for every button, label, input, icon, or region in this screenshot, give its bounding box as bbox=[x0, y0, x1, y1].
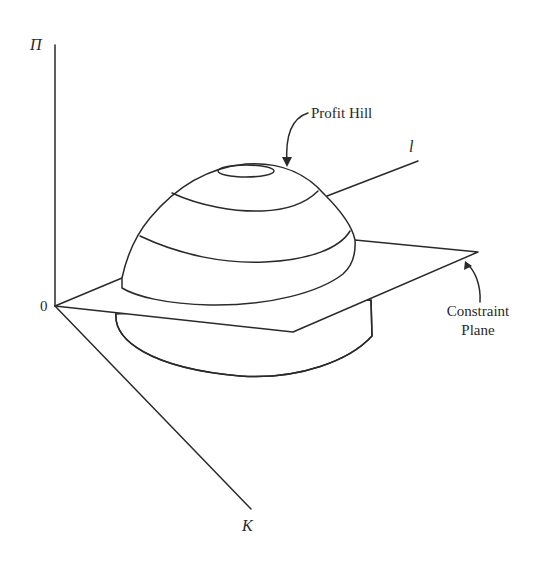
profit-hill-diagram: Π l K 0 Profit Hill Constraint Plane bbox=[0, 0, 535, 566]
profit-hill-arrow bbox=[287, 113, 308, 164]
origin-label: 0 bbox=[40, 298, 48, 314]
constraint-plane-arrow bbox=[466, 263, 480, 302]
pi-axis-label: Π bbox=[29, 36, 43, 53]
l-axis-label: l bbox=[409, 138, 414, 155]
constraint-label-line1: Constraint bbox=[447, 303, 510, 319]
k-axis-label: K bbox=[241, 517, 254, 534]
constraint-label-line2: Plane bbox=[461, 322, 495, 338]
profit-hill-arrowhead bbox=[282, 157, 292, 167]
profit-hill-label: Profit Hill bbox=[311, 105, 372, 121]
l-axis bbox=[327, 161, 418, 196]
hill-dome bbox=[122, 164, 355, 305]
